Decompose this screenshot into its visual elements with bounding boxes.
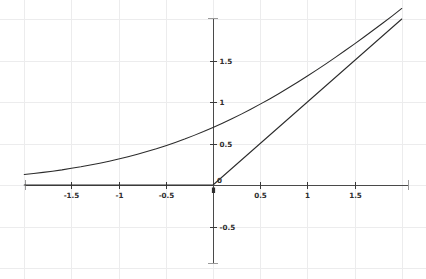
y-tick-label: -0.5: [220, 223, 236, 232]
plot-figure: -1.5-1-0.500.511.51.510.5-0.5: [0, 0, 426, 279]
x-tick-label: 1.5: [349, 191, 362, 200]
x-tick-label: 1: [305, 191, 310, 200]
x-tick-label: -0.5: [159, 191, 175, 200]
x-tick-label: -1: [116, 191, 124, 200]
y-tick-label: 0.5: [220, 140, 233, 149]
x-tick-label: 0.5: [254, 191, 267, 200]
x-tick-label: -1.5: [64, 191, 80, 200]
origin-marker: [212, 188, 215, 194]
y-tick-label: 1.5: [220, 57, 233, 66]
plot-canvas: -1.5-1-0.500.511.51.510.5-0.5: [0, 0, 426, 279]
axis-lines: [25, 18, 409, 264]
origin-label: 0: [217, 176, 222, 185]
y-tick-label: 1: [220, 98, 225, 107]
